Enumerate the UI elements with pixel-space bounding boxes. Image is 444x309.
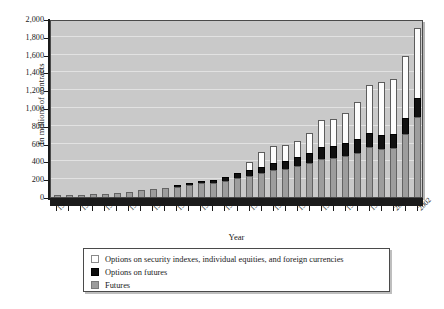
bar [282, 145, 289, 197]
bar [54, 195, 61, 197]
x-axis-tick [164, 206, 165, 211]
bar-segment [258, 173, 265, 197]
bar [150, 189, 157, 197]
bar [222, 177, 229, 197]
bar-segment [126, 192, 133, 197]
y-axis-tick-label-wrap: 0 [0, 193, 44, 203]
bar-segment [306, 153, 313, 163]
y-axis-tick-label: 0 [2, 193, 44, 202]
bar-segment [342, 156, 349, 197]
bar-segment [294, 141, 301, 158]
y-axis-tick-label-wrap: 600 [0, 140, 44, 150]
x-axis-tick [381, 206, 382, 211]
bar-segment [330, 146, 337, 158]
bar-segment [402, 56, 409, 118]
bar-segment [306, 163, 313, 197]
legend-item: Options on futures [91, 266, 383, 278]
y-axis-tick-label: 600 [2, 140, 44, 149]
x-axis-title: Year [50, 232, 423, 242]
bar-segment [366, 85, 373, 132]
bar-segment [54, 195, 61, 197]
y-axis-tick-label-wrap: 2,000 [0, 15, 44, 25]
bar-segment [78, 195, 85, 197]
bar [234, 173, 241, 197]
x-axis-tick [92, 206, 93, 211]
y-axis-tick-label-wrap: 1,800 [0, 33, 44, 43]
bar-segment [330, 158, 337, 197]
bar-segment [342, 143, 349, 156]
y-axis-tick-label: 1,200 [2, 86, 44, 95]
bar [162, 188, 169, 197]
x-axis-tick [68, 206, 69, 211]
x-axis-tick [333, 206, 334, 211]
bar-segment [378, 82, 385, 135]
bar-segment [390, 79, 397, 134]
bar-segment [198, 183, 205, 197]
y-axis-tick [44, 162, 49, 163]
bar-segment [294, 157, 301, 165]
y-axis-tick-label: 2,000 [2, 15, 44, 24]
y-axis-tick [44, 38, 49, 39]
y-axis-tick [44, 145, 49, 146]
y-axis-tick-label: 1,600 [2, 51, 44, 60]
bar [342, 113, 349, 197]
legend-item: Options on security indexes, individual … [91, 253, 383, 265]
chart-legend: Options on security indexes, individual … [83, 248, 390, 292]
y-axis-tick-label: 1,800 [2, 33, 44, 42]
bar-segment [162, 188, 169, 197]
y-axis-tick-label-wrap: 1,600 [0, 51, 44, 61]
y-axis-tick [44, 20, 49, 21]
bar-segment [366, 147, 373, 197]
bar-segment [186, 185, 193, 197]
bar [258, 152, 265, 197]
bar-segment [318, 159, 325, 197]
bar [414, 28, 421, 197]
legend-swatch-options-securities [91, 255, 99, 263]
y-axis-tick [44, 127, 49, 128]
legend-item: Futures [91, 279, 383, 291]
bar-segment [366, 133, 373, 148]
y-axis-tick [44, 56, 49, 57]
bar [294, 141, 301, 198]
chart-figure: In millions of contracts 02004006008001,… [0, 0, 444, 309]
x-axis-tick [261, 206, 262, 211]
bar [378, 82, 385, 197]
bar-segment [342, 113, 349, 142]
legend-swatch-options-futures [91, 268, 99, 276]
bar-segment [282, 161, 289, 169]
y-axis-tick [44, 109, 49, 110]
bar-segment [414, 98, 421, 117]
legend-swatch-futures [91, 281, 99, 289]
bar [306, 133, 313, 197]
bar-segment [174, 187, 181, 197]
x-axis-tick [357, 206, 358, 211]
bar-segment [270, 170, 277, 197]
x-axis-tick [140, 206, 141, 211]
bar [78, 195, 85, 197]
x-axis-tick [116, 206, 117, 211]
bar-segment [234, 178, 241, 197]
bar [174, 185, 181, 197]
x-axis-tick [237, 206, 238, 211]
bar [366, 85, 373, 197]
bar [186, 183, 193, 197]
y-axis-tick-label-wrap: 800 [0, 122, 44, 132]
y-axis-tick-label: 1,400 [2, 68, 44, 77]
x-axis-tick [212, 206, 213, 211]
bar [330, 119, 337, 197]
bar-segment [150, 189, 157, 197]
bar [354, 102, 361, 197]
bar-segment [414, 117, 421, 197]
bar-segment [354, 102, 361, 139]
y-axis-tick [44, 180, 49, 181]
y-axis-tick [44, 198, 49, 199]
bar-segment [306, 133, 313, 153]
legend-label: Options on security indexes, individual … [105, 255, 344, 264]
y-axis-tick-label-wrap: 1,400 [0, 68, 44, 78]
bar [318, 120, 325, 197]
legend-label: Futures [105, 281, 130, 290]
x-axis-tick [309, 206, 310, 211]
y-axis-tick-label: 200 [2, 175, 44, 184]
bar [270, 146, 277, 197]
bar-segment [270, 163, 277, 170]
